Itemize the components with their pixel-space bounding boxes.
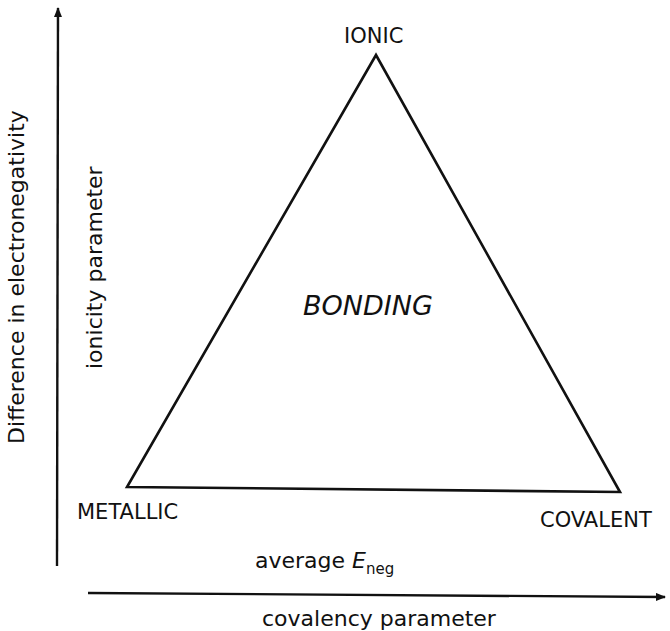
x-axis-bottom-label: covalency parameter (262, 606, 496, 631)
x-axis-top-label-subscript: neg (366, 560, 394, 578)
y-axis-inner-label: ionicity parameter (82, 166, 107, 369)
center-label-bonding: BONDING (303, 290, 433, 321)
x-axis-top-label-main: average (255, 548, 352, 573)
x-axis-top-label: average Eneg (255, 548, 394, 578)
y-axis-outer-label: Difference in electronegativity (4, 110, 29, 444)
bonding-triangle (127, 55, 620, 492)
y-axis-arrow (57, 8, 58, 566)
vertex-label-metallic: METALLIC (77, 500, 178, 524)
vertex-label-covalent: COVALENT (540, 508, 652, 532)
vertex-label-ionic: IONIC (344, 24, 403, 48)
x-axis-top-label-symbol: E (352, 548, 366, 573)
x-axis-arrow (88, 593, 665, 597)
